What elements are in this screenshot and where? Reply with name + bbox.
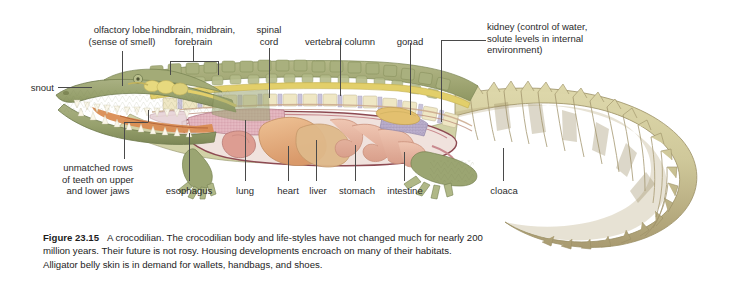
leader-teeth-stub — [148, 110, 149, 122]
label-snout: snout — [8, 82, 54, 94]
leader-kidney-vertical — [441, 40, 442, 122]
heart-organ — [222, 131, 255, 158]
leader-brain-right-tick — [218, 61, 219, 75]
leader-intestine — [404, 152, 405, 181]
label-kidney: kidney (control of water, solute levels … — [487, 21, 627, 56]
leader-brain-bracket — [170, 61, 218, 62]
leader-stomach — [355, 145, 356, 181]
leader-teeth-horizontal — [124, 122, 148, 123]
leader-vertebral-column — [340, 40, 341, 96]
leader-liver — [316, 140, 317, 181]
tail-group — [455, 81, 697, 249]
leader-esophagus — [189, 133, 190, 181]
leader-lung — [245, 120, 246, 181]
label-lung: lung — [226, 185, 264, 197]
leader-gonad — [410, 43, 411, 115]
label-liver: liver — [303, 185, 333, 197]
label-cloaca: cloaca — [482, 185, 526, 197]
label-heart: heart — [269, 185, 307, 197]
leader-brain-left-tick — [170, 61, 171, 75]
leader-heart — [288, 146, 289, 181]
leader-kidney-horizontal — [441, 40, 486, 41]
label-vertebral-column: vertebral column — [292, 36, 388, 48]
label-stomach: stomach — [331, 185, 383, 197]
leader-teeth-vertical — [124, 122, 125, 159]
leader-olfactory-lobe — [122, 51, 123, 86]
figure-crocodilian-anatomy: olfactory lobe (sense of smell) hindbrai… — [0, 0, 739, 301]
leader-snout — [58, 87, 92, 88]
label-brain-regions: hindbrain, midbrain, forebrain — [136, 24, 251, 47]
leader-cloaca — [503, 148, 504, 181]
label-teeth: unmatched rows of teeth on upper and low… — [44, 162, 152, 197]
caption-text: A crocodilian. The crocodilian body and … — [43, 232, 483, 270]
leader-brain-stem — [193, 46, 194, 61]
leader-spinal-cord — [269, 48, 270, 98]
figure-number: Figure 23.15 — [43, 232, 99, 243]
label-intestine: intestine — [379, 185, 431, 197]
label-esophagus: esophagus — [152, 185, 226, 197]
figure-caption: Figure 23.15 A crocodilian. The crocodil… — [43, 231, 483, 271]
caption-spacer — [99, 232, 107, 243]
label-gonad: gonad — [385, 36, 435, 48]
label-spinal-cord: spinal cord — [246, 24, 292, 47]
